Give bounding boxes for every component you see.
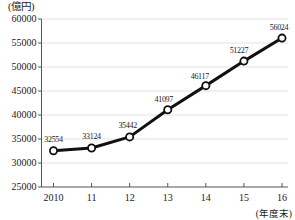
x-axis-note: (年度末) [256, 209, 292, 219]
grid-lines [42, 19, 289, 163]
x-axis-tick-label: 11 [87, 193, 97, 203]
data-point-label: 56024 [270, 23, 289, 32]
x-axis-tick-label: 12 [125, 193, 135, 203]
x-axis-tick-label: 16 [277, 193, 287, 203]
line-chart: (億円) 25000300003500040000450005000055000… [0, 0, 295, 220]
x-axis-tick-label: 14 [201, 193, 211, 203]
data-point-label: 41097 [154, 95, 173, 104]
data-point-marker [50, 147, 57, 154]
data-point-label: 33124 [82, 132, 101, 141]
data-point-label: 46117 [191, 72, 209, 81]
x-axis-tick-label: 13 [163, 193, 173, 203]
data-point-marker [240, 58, 247, 65]
plot-area [0, 0, 295, 220]
data-point-marker [164, 106, 171, 113]
data-point-label: 51227 [230, 46, 249, 55]
data-point-marker [278, 34, 285, 41]
x-axis-tick-label: 2010 [44, 193, 64, 203]
data-point-marker [88, 144, 95, 151]
data-point-marker [126, 133, 133, 140]
data-point-label: 35442 [118, 121, 137, 130]
data-point-marker [202, 82, 209, 89]
data-point-label: 32554 [44, 135, 63, 144]
x-axis-tick-label: 15 [239, 193, 249, 203]
